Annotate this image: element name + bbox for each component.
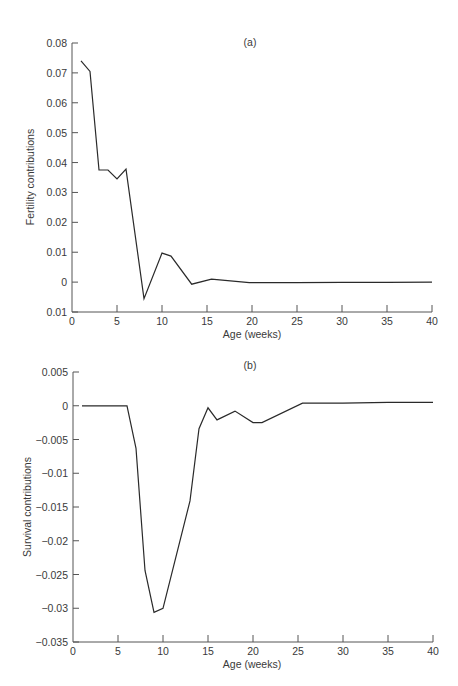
x-tick-label: 25 (292, 645, 304, 657)
y-axis-ticks: 0.080.070.060.050.040.030.020.0100.01 (47, 37, 78, 318)
x-tick-label: 40 (426, 315, 438, 327)
x-axis-ticks: 0510152025303540 (69, 305, 438, 327)
x-tick-label: 30 (337, 645, 349, 657)
y-tick-label: 0.01 (47, 246, 68, 258)
y-tick-label: 0.005 (42, 366, 68, 378)
x-tick-label: 0 (70, 645, 76, 657)
x-tick-label: 5 (114, 315, 120, 327)
y-tick-label: 0.02 (47, 216, 68, 228)
y-tick-label: 0.05 (47, 127, 68, 139)
x-tick-label: 5 (115, 645, 121, 657)
x-tick-label: 25 (291, 315, 303, 327)
y-tick-label: 0 (62, 400, 68, 412)
x-tick-label: 10 (156, 315, 168, 327)
y-tick-label: −0.02 (41, 535, 68, 547)
x-axis-ticks: 0510152025303540 (70, 635, 439, 657)
figure-canvas: (a) 0.080.070.060.050.040.030.020.0100.0… (0, 0, 458, 686)
x-tick-label: 0 (69, 315, 75, 327)
y-axis-ticks: 0.0050−0.005−0.01−0.015−0.02−0.025−0.03−… (36, 366, 79, 648)
chart-fertility-contributions: (a) 0.080.070.060.050.040.030.020.0100.0… (24, 36, 438, 340)
y-tick-label: 0.08 (47, 37, 68, 49)
y-tick-label: 0.01 (47, 306, 68, 318)
survival-series-line (82, 402, 433, 612)
chart-survival-contributions: (b) 0.0050−0.005−0.01−0.015−0.02−0.025−0… (21, 359, 439, 670)
fertility-series-line (81, 61, 432, 299)
x-tick-label: 15 (202, 645, 214, 657)
y-tick-label: 0.03 (47, 186, 68, 198)
x-tick-label: 20 (247, 645, 259, 657)
figure: (a) 0.080.070.060.050.040.030.020.0100.0… (0, 0, 458, 686)
x-tick-label: 15 (201, 315, 213, 327)
panel-label-a: (a) (244, 36, 257, 48)
x-axis-label: Age (weeks) (223, 328, 281, 340)
y-tick-label: −0.01 (41, 467, 68, 479)
y-tick-label: 0.07 (47, 67, 68, 79)
x-tick-label: 35 (381, 315, 393, 327)
y-tick-label: 0 (61, 276, 67, 288)
x-tick-label: 35 (382, 645, 394, 657)
y-tick-label: 0.04 (47, 157, 68, 169)
x-tick-label: 20 (246, 315, 258, 327)
y-tick-label: −0.035 (36, 636, 69, 648)
panel-label-b: (b) (244, 359, 257, 371)
y-tick-label: 0.06 (47, 97, 68, 109)
y-tick-label: −0.005 (36, 434, 69, 446)
y-tick-label: −0.03 (41, 602, 68, 614)
y-tick-label: −0.025 (36, 569, 69, 581)
x-tick-label: 10 (157, 645, 169, 657)
x-tick-label: 40 (427, 645, 439, 657)
y-axis-label: Survival contributions (21, 457, 33, 557)
y-tick-label: −0.015 (36, 501, 69, 513)
x-axis-label: Age (weeks) (223, 658, 281, 670)
x-tick-label: 30 (336, 315, 348, 327)
y-axis-label: Fertility contributions (24, 129, 36, 225)
